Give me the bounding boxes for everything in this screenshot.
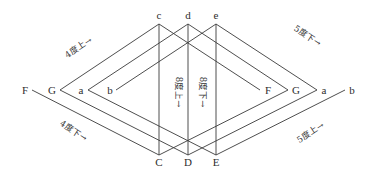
- label-top-d: d: [185, 9, 191, 21]
- label-right-F: F: [265, 84, 271, 96]
- line-G-D: [60, 90, 188, 155]
- label-right-G: G: [292, 84, 300, 96]
- line-c-G: [60, 24, 159, 90]
- label-left-b: b: [107, 84, 113, 96]
- annotation-upper-right: 5度下→: [292, 23, 323, 48]
- label-top-c: c: [157, 9, 162, 21]
- label-bottom-D: D: [184, 156, 192, 168]
- annotation-center-right: 8度下→: [198, 77, 208, 108]
- label-bottom-E: E: [213, 156, 220, 168]
- label-left-F: F: [22, 84, 28, 96]
- label-right-b: b: [349, 84, 355, 96]
- label-top-e: e: [214, 9, 219, 21]
- line-d-a: [88, 24, 188, 90]
- line-F-C: [32, 90, 159, 155]
- annotation-lower-left: 4度下→: [58, 118, 89, 143]
- annotation-lower-right: 5度上→: [295, 120, 326, 145]
- label-bottom-C: C: [155, 156, 162, 168]
- diagram-lines: c d e C D E F G a b F G a b 4度上→ 5度下→ 4度…: [0, 0, 374, 177]
- label-left-G: G: [48, 84, 56, 96]
- line-a-E: [88, 90, 216, 155]
- annotation-center-left: 8度上→: [174, 77, 184, 108]
- line-E-b: [216, 90, 345, 155]
- label-left-a: a: [79, 84, 84, 96]
- label-right-a: a: [322, 84, 327, 96]
- annotation-upper-left: 4度上→: [63, 35, 94, 60]
- interval-diagram: c d e C D E F G a b F G a b 4度上→ 5度下→ 4度…: [0, 0, 374, 177]
